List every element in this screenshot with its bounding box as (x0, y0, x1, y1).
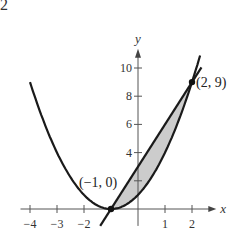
point-label-right: (2, 9) (196, 75, 227, 91)
y-axis-label: y (133, 31, 141, 46)
y-tick-label: 4 (126, 146, 132, 160)
point-label-left: (−1, 0) (79, 175, 118, 191)
y-tick-label: 10 (120, 61, 132, 75)
y-tick-label: 8 (126, 89, 132, 103)
x-tick-label: 2 (189, 217, 195, 231)
intersection-point (108, 206, 114, 212)
line-curve (100, 67, 201, 226)
y-tick-label: 6 (126, 117, 132, 131)
y-axis-arrow-icon (135, 49, 141, 58)
chart: −4−3−21246810xy(−1, 0)(2, 9) (0, 0, 246, 245)
x-tick-label: −2 (78, 217, 91, 231)
x-tick-label: −3 (51, 217, 64, 231)
x-tick-label: 1 (162, 217, 168, 231)
x-tick-label: −4 (24, 217, 37, 231)
intersection-point (189, 79, 195, 85)
x-axis-label: x (219, 201, 226, 216)
x-axis-arrow-icon (208, 206, 216, 212)
